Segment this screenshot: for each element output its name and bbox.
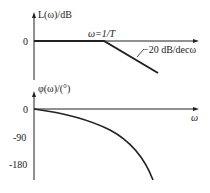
magnitude-y-arrow-icon	[32, 12, 36, 18]
magnitude-ylabel: L(ω)/dB	[38, 10, 72, 20]
slope-label: −20 dB/decω	[143, 45, 196, 55]
phase-zero-tick: 0	[23, 105, 28, 115]
phase-xlabel: ω	[191, 113, 198, 123]
phase-ylabel: φ(ω)/(°)	[38, 84, 70, 94]
magnitude-x-arrow-icon	[193, 39, 199, 43]
phase-m180-tick: -180	[9, 160, 27, 170]
magnitude-asymptote	[34, 41, 158, 73]
corner-frequency-label: ω=1/T	[88, 29, 115, 39]
phase-y-arrow-icon	[32, 91, 36, 97]
phase-m90-tick: -90	[13, 133, 26, 143]
phase-x-arrow-icon	[193, 107, 199, 111]
magnitude-zero-tick: 0	[23, 37, 28, 47]
phase-curve	[34, 109, 153, 180]
